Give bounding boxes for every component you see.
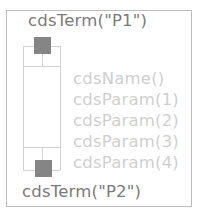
bottom-pin-left-lead bbox=[23, 147, 24, 171]
param-label-1: cdsParam(1) bbox=[73, 92, 179, 109]
pin-square-p1[interactable] bbox=[34, 37, 51, 54]
terminal-label-p1: cdsTerm("P1") bbox=[28, 13, 147, 30]
top-pin-center-lead bbox=[42, 54, 43, 66]
top-pin-left-lead bbox=[23, 46, 24, 66]
top-pin-right-lead bbox=[60, 46, 61, 66]
param-label-3: cdsParam(3) bbox=[73, 134, 179, 151]
param-label-4: cdsParam(4) bbox=[73, 155, 179, 172]
pin-square-p2[interactable] bbox=[35, 160, 52, 177]
instance-name-label: cdsName() bbox=[73, 71, 165, 88]
bottom-pin-center-lead bbox=[42, 147, 43, 160]
bottom-pin-right-lead bbox=[60, 147, 61, 171]
device-body bbox=[23, 66, 61, 148]
param-label-2: cdsParam(2) bbox=[73, 113, 179, 130]
terminal-label-p2: cdsTerm("P2") bbox=[22, 184, 141, 201]
